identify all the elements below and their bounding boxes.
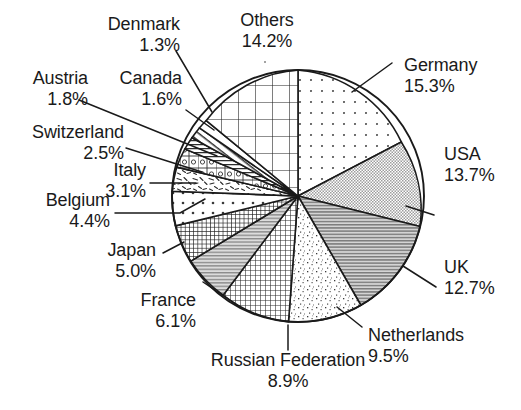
label-russian-federation-percent: 8.9% bbox=[190, 371, 386, 392]
label-others-name: Others bbox=[219, 10, 315, 31]
label-france-name: France bbox=[96, 290, 196, 311]
label-netherlands-name: Netherlands bbox=[368, 325, 498, 346]
leader-japan bbox=[163, 242, 184, 253]
label-france-percent: 6.1% bbox=[96, 311, 196, 332]
label-others: Others 14.2% bbox=[219, 10, 315, 52]
label-russian-federation-name: Russian Federation bbox=[190, 350, 386, 371]
label-italy-name: Italy bbox=[64, 160, 146, 181]
label-denmark-percent: 1.3% bbox=[82, 35, 180, 56]
label-switzerland: Switzerland 2.5% bbox=[0, 122, 124, 164]
leader-uk bbox=[403, 266, 436, 287]
label-uk-name: UK bbox=[444, 257, 520, 278]
label-belgium-name: Belgium bbox=[0, 190, 110, 211]
label-canada-name: Canada bbox=[88, 68, 182, 89]
label-canada-percent: 1.6% bbox=[88, 89, 182, 110]
pie-chart: Denmark 1.3% Others 14.2% Germany 15.3% … bbox=[0, 0, 521, 410]
label-netherlands: Netherlands 9.5% bbox=[368, 325, 498, 367]
label-usa-name: USA bbox=[444, 144, 520, 165]
label-japan-percent: 5.0% bbox=[62, 261, 156, 282]
label-usa: USA 13.7% bbox=[444, 144, 520, 186]
label-austria-percent: 1.8% bbox=[0, 89, 88, 110]
label-germany: Germany 15.3% bbox=[404, 55, 514, 97]
label-belgium: Belgium 4.4% bbox=[0, 190, 110, 232]
label-germany-percent: 15.3% bbox=[404, 76, 514, 97]
label-france: France 6.1% bbox=[96, 290, 196, 332]
label-netherlands-percent: 9.5% bbox=[368, 346, 498, 367]
label-denmark: Denmark 1.3% bbox=[82, 14, 180, 56]
label-russian-federation: Russian Federation 8.9% bbox=[190, 350, 386, 392]
label-japan-name: Japan bbox=[62, 240, 156, 261]
label-austria: Austria 1.8% bbox=[0, 68, 88, 110]
label-denmark-name: Denmark bbox=[82, 14, 180, 35]
label-canada: Canada 1.6% bbox=[88, 68, 182, 110]
label-austria-name: Austria bbox=[0, 68, 88, 89]
label-uk: UK 12.7% bbox=[444, 257, 520, 299]
label-uk-percent: 12.7% bbox=[444, 278, 520, 299]
label-usa-percent: 13.7% bbox=[444, 165, 520, 186]
label-others-percent: 14.2% bbox=[219, 31, 315, 52]
leader-germany bbox=[352, 63, 392, 92]
label-belgium-percent: 4.4% bbox=[0, 211, 110, 232]
label-germany-name: Germany bbox=[404, 55, 514, 76]
label-switzerland-name: Switzerland bbox=[0, 122, 124, 143]
label-japan: Japan 5.0% bbox=[62, 240, 156, 282]
